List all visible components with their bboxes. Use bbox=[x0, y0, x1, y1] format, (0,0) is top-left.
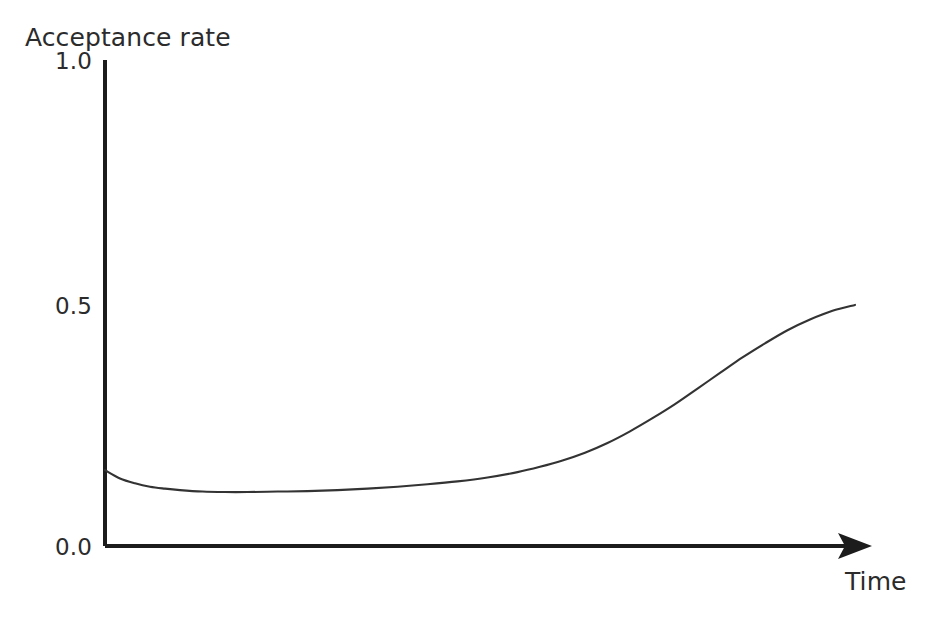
x-axis-title: Time bbox=[844, 567, 907, 596]
acceptance-rate-line-chart: Acceptance rate 1.0 0.5 0.0 Time bbox=[0, 0, 925, 624]
y-tick-label-0: 0.0 bbox=[55, 534, 92, 560]
acceptance-rate-curve bbox=[105, 305, 855, 492]
y-tick-label-1: 1.0 bbox=[55, 48, 92, 74]
chart-canvas: Acceptance rate 1.0 0.5 0.0 Time bbox=[0, 0, 925, 624]
y-tick-label-0-5: 0.5 bbox=[55, 293, 92, 319]
